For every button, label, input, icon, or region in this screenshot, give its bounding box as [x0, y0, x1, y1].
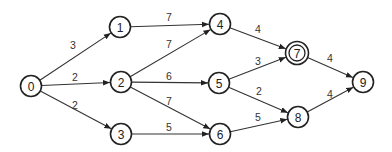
- node-label: 8: [295, 111, 302, 125]
- node-3: 3: [111, 124, 132, 145]
- node-9: 9: [353, 72, 374, 93]
- edge-weight-label: 4: [327, 52, 333, 64]
- edge-weight-label: 2: [72, 71, 78, 83]
- edge-2-5: [132, 82, 209, 83]
- node-label: 9: [360, 76, 367, 90]
- edge-weight-label: 2: [72, 99, 78, 111]
- edge-weight-label: 2: [256, 85, 262, 97]
- edge-weight-label: 4: [255, 23, 261, 35]
- edge-weight-label: 7: [166, 95, 172, 107]
- node-label: 7: [294, 47, 301, 61]
- node-0: 0: [21, 76, 42, 97]
- node-8: 8: [288, 107, 309, 128]
- node-2: 2: [111, 72, 132, 93]
- edge-weight-label: 3: [255, 55, 261, 67]
- edge-weight-label: 3: [70, 39, 76, 51]
- edge-weight-label: 7: [166, 11, 172, 23]
- node-5: 5: [209, 73, 230, 94]
- node-6: 6: [210, 124, 231, 145]
- edge-weight-label: 4: [327, 88, 333, 100]
- node-label: 1: [117, 21, 124, 35]
- edge-weight-label: 5: [255, 111, 261, 123]
- edge-weight-label: 6: [166, 70, 172, 82]
- edge-1-4: [131, 24, 210, 26]
- node-label: 6: [217, 128, 224, 142]
- node-1: 1: [110, 17, 131, 38]
- node-label: 0: [28, 80, 35, 94]
- node-label: 4: [217, 18, 224, 32]
- edge-weight-label: 5: [166, 121, 172, 133]
- node-7-accepting: 7: [286, 42, 309, 65]
- node-label: 3: [118, 128, 125, 142]
- graph-diagram: 32277675432544 0123456789: [0, 0, 392, 152]
- node-label: 2: [118, 76, 125, 90]
- edge-weight-label: 7: [166, 38, 172, 50]
- node-4: 4: [210, 14, 231, 35]
- node-label: 5: [216, 77, 223, 91]
